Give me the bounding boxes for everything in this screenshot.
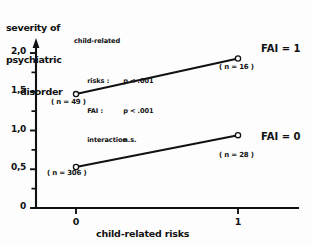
series-layer <box>73 56 240 170</box>
y-tick-label-0: 0 <box>6 202 26 212</box>
y-tick-label-2-0: 2,0 <box>6 47 26 57</box>
legend-label-fai-0: FAI = 0 <box>261 132 300 143</box>
x-tick-label-1: 1 <box>231 217 245 227</box>
series-line-fai-1 <box>76 58 238 94</box>
y-tick-label-1-5: 1,5 <box>6 86 26 96</box>
series-line-fai-0 <box>76 135 238 167</box>
data-point-marker <box>73 91 78 96</box>
legend-label-fai-1: FAI = 1 <box>261 44 300 55</box>
y-axis-arrowhead <box>33 38 40 48</box>
x-tick-label-0: 0 <box>69 217 83 227</box>
data-point-marker <box>235 56 240 61</box>
data-point-marker <box>235 133 240 138</box>
point-label-fai0-x0: ( n = 306 ) <box>47 170 86 178</box>
y-tick-label-1-0: 1,0 <box>6 125 26 135</box>
point-label-fai0-x1: ( n = 28 ) <box>219 152 254 160</box>
point-label-fai1-x0: ( n = 49 ) <box>51 99 86 107</box>
y-tick-label-0-5: 0,5 <box>6 163 26 173</box>
point-label-fai1-x1: ( n = 16 ) <box>219 64 254 72</box>
chart-figure: severity of psychiatric disorder child-r… <box>0 0 311 246</box>
x-axis-title: child-related risks <box>96 229 189 239</box>
plot-area <box>0 0 311 246</box>
axis-layer <box>33 38 298 208</box>
tick-layer <box>30 53 238 214</box>
